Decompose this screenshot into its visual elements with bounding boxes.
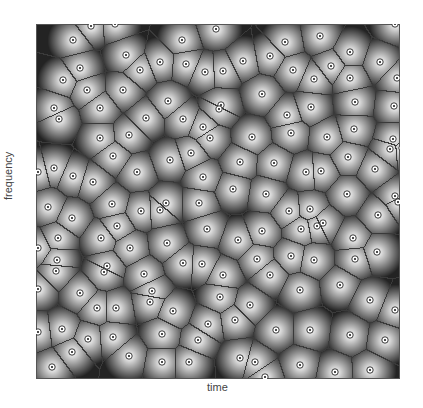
voronoi-plot [36,24,400,379]
y-axis-label: frequency [2,152,14,200]
voronoi-figure: frequency time [0,0,423,408]
x-axis-label: time [207,381,228,393]
